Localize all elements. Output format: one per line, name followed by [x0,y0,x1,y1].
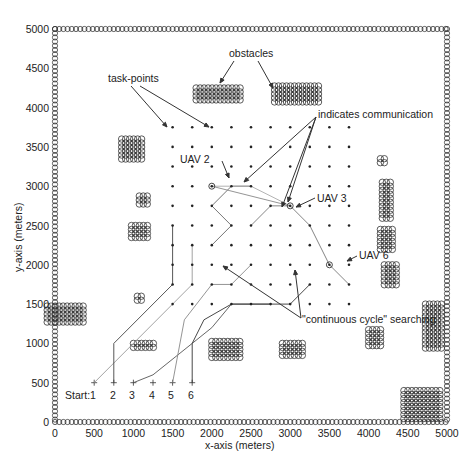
annotation-arrows [131,61,357,318]
communication-label: indicates communication [318,108,433,120]
x-tick-label: 3000 [279,427,303,439]
y-axis-label: y-axis (meters) [12,203,24,272]
y-tick-label: 4000 [26,102,50,114]
start-num-6: 6 [188,389,194,401]
x-tick-label: 0 [52,427,58,439]
x-tick-label: 5000 [435,427,459,439]
x-axis-label: x-axis (meters) [205,439,274,451]
start-num-2: 2 [110,389,116,401]
start-num-1: 1 [90,389,96,401]
y-tick-label: 2500 [26,220,50,232]
x-tick-label: 500 [85,427,103,439]
uav3-label: UAV 3 [317,192,347,204]
start-num-4: 4 [149,389,155,401]
x-tick-label: 3500 [318,427,342,439]
y-tick-label: 1500 [26,298,50,310]
cycle-search-label: "continuous cycle" searching [302,313,436,325]
y-tick-label: 3000 [26,180,50,192]
task-points-label: task-points [108,72,159,84]
start-num-5: 5 [168,389,174,401]
obstacles-label: obstacles [229,47,273,59]
x-tick-label: 1500 [161,427,185,439]
y-tick-label: 5000 [26,23,50,35]
uav-search-plot: 0500100015002000250030003500400045005000… [0,0,471,463]
y-tick-label: 1000 [26,337,50,349]
y-tick-label: 2000 [26,259,50,271]
y-tick-label: 4500 [26,62,50,74]
y-tick-label: 3500 [26,141,50,153]
start-label: Start: [65,389,90,401]
x-tick-label: 2000 [200,427,224,439]
x-tick-label: 2500 [239,427,263,439]
uav6-label: UAV 6 [359,249,389,261]
x-tick-label: 1000 [122,427,146,439]
y-tick-label: 500 [31,377,49,389]
start-num-3: 3 [129,389,135,401]
uav2-label: UAV 2 [180,153,210,165]
annotations: obstacles task-points indicates communic… [12,47,436,451]
x-tick-label: 4500 [396,427,420,439]
y-tick-label: 0 [43,416,49,428]
x-tick-label: 4000 [357,427,381,439]
